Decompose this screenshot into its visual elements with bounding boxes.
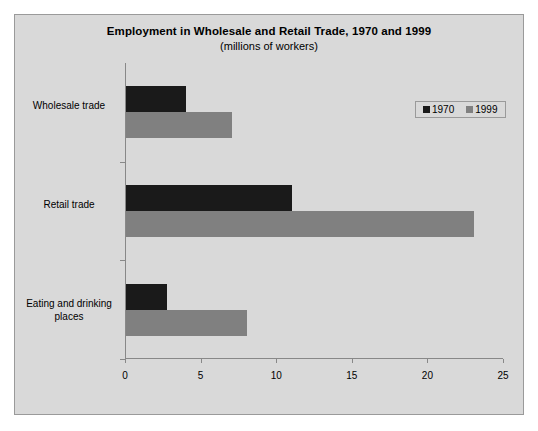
y-axis-tick [120,162,125,163]
x-axis-tick-label: 5 [198,370,204,381]
x-axis-tick [503,359,504,363]
bar-1-0 [126,112,232,138]
category-label: Retail trade [21,198,117,211]
y-axis-tick [120,260,125,261]
x-axis-tick-label: 0 [122,370,128,381]
x-axis-tick [201,359,202,363]
x-axis-tick [352,359,353,363]
x-axis-tick-label: 25 [497,370,508,381]
x-axis-line [125,358,503,359]
x-axis-tick [427,359,428,363]
bar-0-2 [126,284,167,310]
chart-title-block: Employment in Wholesale and Retail Trade… [15,24,523,54]
chart-title: Employment in Wholesale and Retail Trade… [15,24,523,39]
x-axis-tick [276,359,277,363]
chart-subtitle: (millions of workers) [15,39,523,54]
x-axis-tick-label: 15 [346,370,357,381]
x-axis-tick-label: 20 [422,370,433,381]
x-axis-tick [125,359,126,363]
bar-0-1 [126,185,292,211]
plot-area: Wholesale tradeRetail tradeEating and dr… [125,63,503,359]
bar-1-2 [126,310,247,336]
category-label: Wholesale trade [21,99,117,112]
x-axis-tick-label: 10 [271,370,282,381]
chart-frame: Employment in Wholesale and Retail Trade… [14,14,524,415]
bar-1-1 [126,211,474,237]
bar-0-0 [126,86,186,112]
y-axis-tick [120,359,125,360]
category-label: Eating and drinking places [21,297,117,323]
